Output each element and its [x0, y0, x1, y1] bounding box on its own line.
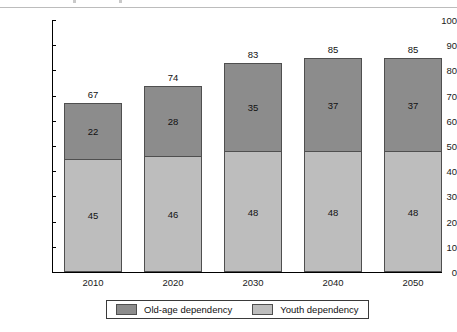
bar-segment-value-old-age: 37 — [385, 99, 441, 110]
bar-total-value: 85 — [385, 44, 441, 55]
bar-segment-value-youth: 46 — [145, 209, 201, 220]
legend-swatch-icon — [252, 304, 273, 315]
cropped-title-fragment — [119, 0, 122, 3]
bar-segment-value-old-age: 28 — [145, 116, 201, 127]
x-axis-tick-label-2010: 2010 — [58, 277, 128, 288]
bar-2040: 378548 — [304, 58, 362, 272]
x-axis-tick-label-2040: 2040 — [298, 277, 368, 288]
bar-total-value: 83 — [225, 49, 281, 60]
bar-segment-old-age: 2874 — [144, 86, 202, 157]
bar-2030: 358348 — [224, 63, 282, 272]
legend-swatch-icon — [116, 304, 137, 315]
bar-segment-old-age: 2267 — [64, 103, 122, 158]
bar-segment-value-old-age: 37 — [305, 99, 361, 110]
bar-segment-youth: 45 — [64, 159, 122, 272]
bar-segment-old-age: 3785 — [384, 58, 442, 151]
bar-segment-youth: 48 — [304, 151, 362, 272]
legend-label: Youth dependency — [280, 304, 358, 315]
bar-segment-old-age: 3583 — [224, 63, 282, 151]
bar-2010: 226745 — [64, 103, 122, 272]
bar-segment-value-youth: 45 — [65, 210, 121, 221]
cropped-title-fragment — [73, 0, 76, 3]
bar-segment-value-youth: 48 — [225, 206, 281, 217]
legend-item[interactable]: Youth dependency — [252, 304, 358, 315]
bar-2050: 378548 — [384, 58, 442, 272]
chart-legend: Old-age dependencyYouth dependency — [106, 300, 369, 319]
bar-segment-youth: 48 — [224, 151, 282, 272]
x-axis-tick-label-2030: 2030 — [218, 277, 288, 288]
bar-segment-value-old-age: 22 — [65, 126, 121, 137]
bar-segment-youth: 48 — [384, 151, 442, 272]
bar-2020: 287446 — [144, 86, 202, 272]
legend-item[interactable]: Old-age dependency — [116, 304, 232, 315]
bar-segment-youth: 46 — [144, 156, 202, 272]
page-top-rule — [0, 7, 457, 8]
x-axis-line — [52, 272, 442, 273]
bar-segment-value-youth: 48 — [305, 206, 361, 217]
bar-segment-value-old-age: 35 — [225, 102, 281, 113]
bar-segment-value-youth: 48 — [385, 206, 441, 217]
legend-label: Old-age dependency — [144, 304, 232, 315]
x-axis-tick-label-2050: 2050 — [378, 277, 448, 288]
chart-figure: 0102030405060708090100 22674528744635834… — [0, 0, 457, 332]
bar-total-value: 85 — [305, 44, 361, 55]
x-axis-tick-label-2020: 2020 — [138, 277, 208, 288]
y-axis-tick-mark — [52, 272, 56, 273]
bar-total-value: 74 — [145, 72, 201, 83]
bar-segment-old-age: 3785 — [304, 58, 362, 151]
plot-area: 226745287446358348378548378548 — [53, 20, 439, 272]
bar-total-value: 67 — [65, 89, 121, 100]
